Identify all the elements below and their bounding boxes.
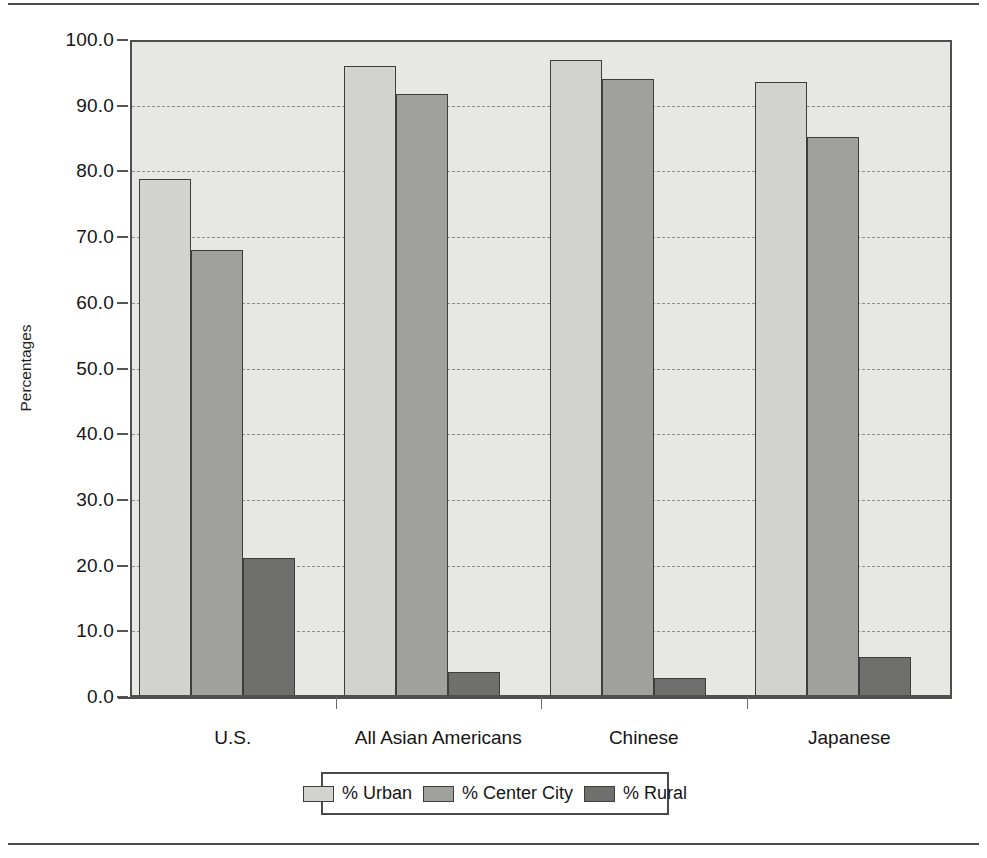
y-tick-mark: [117, 39, 128, 41]
y-tick-mark: [117, 630, 128, 632]
legend-swatch-rural: [584, 786, 615, 802]
bar-group: [344, 42, 500, 695]
legend-swatch-urban: [303, 786, 334, 802]
bar: [859, 657, 911, 695]
bar-group: [755, 42, 911, 695]
y-tick-label: 40.0: [76, 423, 114, 445]
bar-group: [550, 42, 706, 695]
y-tick-label: 100.0: [65, 29, 114, 51]
bar: [602, 79, 654, 695]
y-tick-mark: [117, 105, 128, 107]
legend-item[interactable]: % Urban: [303, 783, 412, 804]
x-tick-mark: [541, 697, 542, 709]
y-tick-label: 70.0: [76, 226, 114, 248]
y-tick-mark: [117, 433, 128, 435]
legend-label: % Rural: [623, 783, 687, 804]
bar: [807, 137, 859, 695]
y-tick-label: 0.0: [87, 686, 114, 708]
y-tick-label: 10.0: [76, 620, 114, 642]
legend-item[interactable]: % Rural: [584, 783, 687, 804]
y-tick-label: 90.0: [76, 95, 114, 117]
x-tick-label: Japanese: [808, 727, 890, 749]
x-axis-line: [118, 697, 952, 699]
y-axis-title: Percentages: [17, 324, 35, 411]
x-tick-mark: [336, 697, 337, 709]
bar: [396, 94, 448, 695]
bar-group: [139, 42, 295, 695]
y-tick-label: 80.0: [76, 160, 114, 182]
y-tick-mark: [117, 499, 128, 501]
figure-top-rule: [8, 3, 979, 5]
y-tick-mark: [117, 170, 128, 172]
y-tick-mark: [117, 368, 128, 370]
y-tick-mark: [117, 565, 128, 567]
y-tick-label: 20.0: [76, 555, 114, 577]
x-tick-label: U.S.: [214, 727, 251, 749]
x-tick-label: All Asian Americans: [355, 727, 522, 749]
legend-label: % Center City: [462, 783, 573, 804]
legend-label: % Urban: [342, 783, 412, 804]
bar: [550, 60, 602, 695]
bar: [139, 179, 191, 695]
bar: [755, 82, 807, 695]
x-axis: U.S.All Asian AmericansChineseJapanese: [130, 697, 952, 757]
figure-bottom-rule: [8, 843, 979, 845]
bar: [344, 66, 396, 695]
y-tick-label: 30.0: [76, 489, 114, 511]
y-tick-label: 60.0: [76, 292, 114, 314]
chart-legend: % Urban% Center City% Rural: [321, 772, 669, 815]
chart-figure: 100.090.080.070.060.050.040.030.020.010.…: [0, 0, 987, 858]
bar: [191, 250, 243, 695]
legend-item[interactable]: % Center City: [423, 783, 573, 804]
plot-area: [130, 40, 952, 697]
x-tick-label: Chinese: [609, 727, 679, 749]
bar: [243, 558, 295, 695]
y-tick-mark: [117, 236, 128, 238]
y-tick-mark: [117, 302, 128, 304]
x-tick-mark: [747, 697, 748, 709]
bar: [654, 678, 706, 695]
y-tick-label: 50.0: [76, 358, 114, 380]
bar: [448, 672, 500, 695]
legend-swatch-center-city: [423, 786, 454, 802]
